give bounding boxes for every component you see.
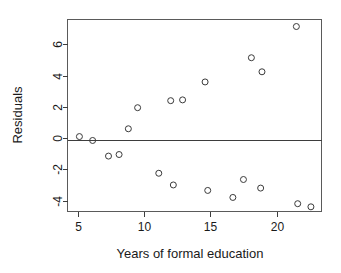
data-point xyxy=(308,204,314,210)
data-point xyxy=(230,194,236,200)
data-point xyxy=(135,105,141,111)
data-point xyxy=(248,55,254,61)
residual-scatter-plot: 6420-2-4 5101520 Residuals Years of form… xyxy=(0,0,341,273)
data-point xyxy=(106,153,112,159)
data-point xyxy=(240,177,246,183)
data-point xyxy=(258,185,264,191)
y-tick-label: 0 xyxy=(51,135,65,142)
data-point xyxy=(116,152,122,158)
data-point xyxy=(205,187,211,193)
x-axis-tick-label-group: 5101520 xyxy=(75,220,284,234)
data-point xyxy=(125,126,131,132)
y-tick-label: 6 xyxy=(51,41,65,48)
x-tick-label: 5 xyxy=(75,220,82,234)
data-point xyxy=(156,170,162,176)
y-axis-title: Residuals xyxy=(10,86,25,144)
data-point xyxy=(76,134,82,140)
x-tick-label: 15 xyxy=(204,220,218,234)
plot-frame-group xyxy=(68,20,322,212)
x-axis-tick-group xyxy=(79,212,278,217)
data-point xyxy=(259,69,265,75)
chart-canvas: 6420-2-4 5101520 Residuals Years of form… xyxy=(0,0,341,273)
y-tick-label: 2 xyxy=(51,104,65,111)
y-tick-label: -4 xyxy=(51,196,65,207)
y-tick-label: -2 xyxy=(51,164,65,175)
data-point-group xyxy=(76,24,314,210)
data-point xyxy=(202,79,208,85)
y-axis-tick-group xyxy=(63,45,68,202)
y-tick-label: 4 xyxy=(51,73,65,80)
y-axis-tick-label-group: 6420-2-4 xyxy=(51,41,65,207)
x-axis-title: Years of formal education xyxy=(117,246,264,261)
data-point xyxy=(180,97,186,103)
data-point xyxy=(295,201,301,207)
plot-frame xyxy=(68,20,322,212)
x-tick-label: 20 xyxy=(271,220,285,234)
x-tick-label: 10 xyxy=(138,220,152,234)
data-point xyxy=(168,98,174,104)
data-point xyxy=(170,182,176,188)
data-point xyxy=(293,24,299,30)
